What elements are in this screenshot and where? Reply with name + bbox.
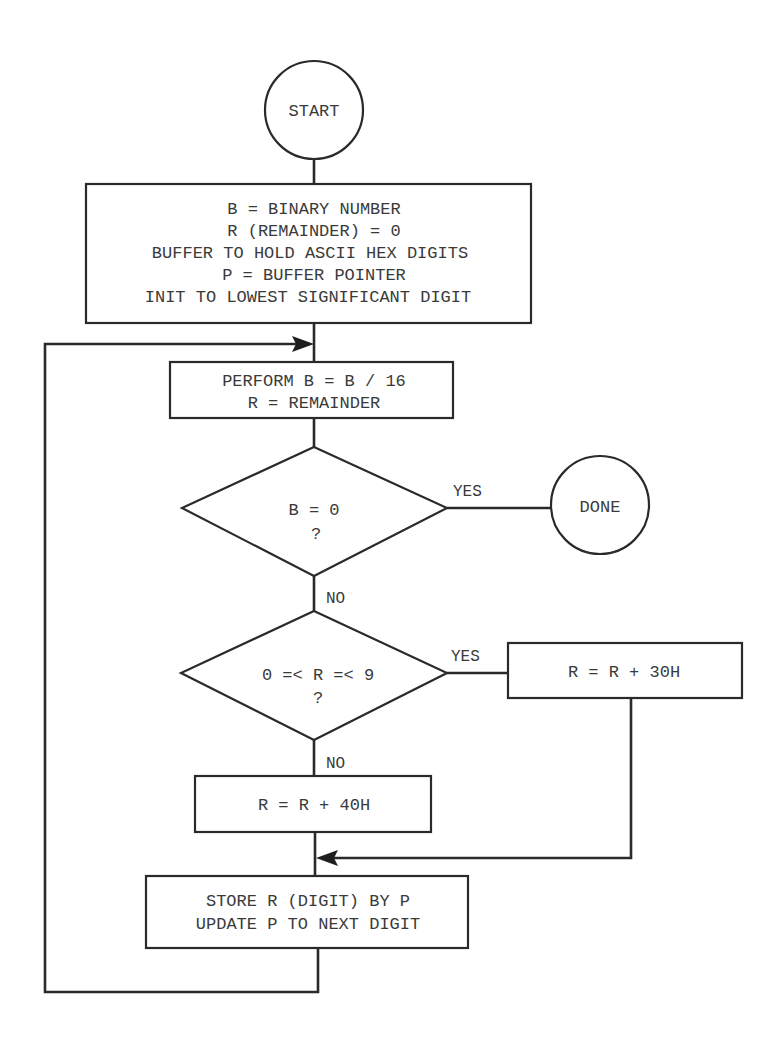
check-b-line-1: B = 0 [288, 501, 339, 520]
check-b-no-label: NO [326, 590, 345, 608]
divide-line-2: R = REMAINDER [248, 394, 381, 413]
flowchart: START B = BINARY NUMBER R (REMAINDER) = … [0, 0, 781, 1048]
init-node: B = BINARY NUMBER R (REMAINDER) = 0 BUFF… [86, 184, 531, 323]
check-b-line-2: ? [311, 525, 321, 544]
start-node: START [265, 61, 363, 159]
check-r-no-label: NO [326, 755, 345, 773]
done-node: DONE [551, 456, 649, 554]
divide-node: PERFORM B = B / 16 R = REMAINDER [170, 362, 453, 418]
check-r-line-1: 0 =< R =< 9 [262, 666, 374, 685]
divide-line-1: PERFORM B = B / 16 [222, 372, 406, 391]
init-line-2: R (REMAINDER) = 0 [227, 222, 400, 241]
check-r-yes-label: YES [451, 648, 480, 666]
store-line-2: UPDATE P TO NEXT DIGIT [196, 915, 420, 934]
check-b-node: B = 0 ? YES NO [182, 447, 482, 608]
store-box [146, 876, 468, 948]
add40-label: R = R + 40H [258, 796, 370, 815]
done-label: DONE [580, 498, 621, 517]
init-line-5: INIT TO LOWEST SIGNIFICANT DIGIT [145, 288, 471, 307]
add30-node: R = R + 30H [508, 643, 742, 698]
check-r-node: 0 =< R =< 9 ? YES NO [181, 611, 480, 773]
add40-node: R = R + 40H [195, 776, 431, 832]
init-line-4: P = BUFFER POINTER [222, 266, 406, 285]
check-b-yes-label: YES [453, 483, 482, 501]
init-line-3: BUFFER TO HOLD ASCII HEX DIGITS [152, 244, 468, 263]
init-line-1: B = BINARY NUMBER [227, 200, 400, 219]
start-label: START [288, 102, 339, 121]
check-r-line-2: ? [313, 689, 323, 708]
add30-label: R = R + 30H [568, 663, 680, 682]
store-node: STORE R (DIGIT) BY P UPDATE P TO NEXT DI… [146, 876, 468, 948]
store-line-1: STORE R (DIGIT) BY P [206, 892, 410, 911]
